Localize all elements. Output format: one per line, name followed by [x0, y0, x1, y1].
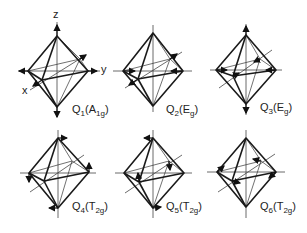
octahedron-q2 — [113, 25, 192, 112]
y-axis-label: y — [101, 63, 107, 75]
mode-label-q4: Q4(T2g) — [72, 200, 108, 215]
mode-label-q2: Q2(Eg) — [166, 103, 198, 118]
octahedral-modes-diagram — [0, 0, 307, 233]
mode-label-q6: Q6(T2g) — [260, 200, 296, 215]
mode-label-q5: Q5(T2g) — [166, 200, 202, 215]
z-axis-label: z — [53, 8, 59, 20]
x-axis-label: x — [22, 84, 28, 96]
mode-label-q1: Q1(A1g) — [72, 103, 109, 118]
mode-label-q3: Q3(Eg) — [260, 101, 292, 116]
